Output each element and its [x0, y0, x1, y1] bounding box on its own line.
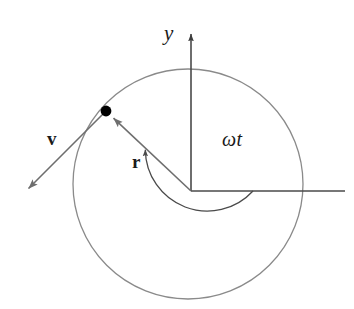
velocity-vector-label: v [47, 129, 57, 148]
particle-dot [101, 106, 112, 117]
diagram-canvas [0, 0, 354, 309]
velocity-vector-v [29, 111, 107, 189]
circular-path [73, 69, 303, 299]
angle-arc [145, 150, 253, 211]
position-vector-label: r [132, 152, 140, 171]
position-vector-r [114, 118, 192, 191]
y-axis-label: y [164, 23, 173, 44]
circular-motion-figure: y ωt v r [0, 0, 354, 309]
angle-label-omega-t: ωt [222, 129, 243, 149]
